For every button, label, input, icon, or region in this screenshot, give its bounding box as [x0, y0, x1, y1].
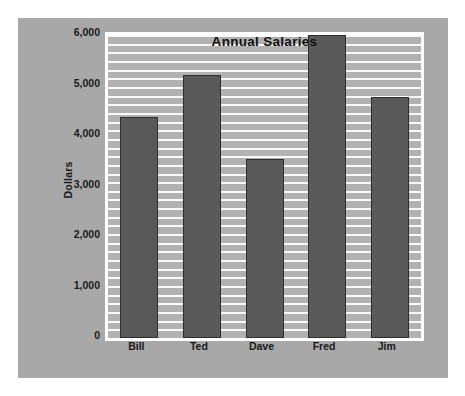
chart-panel: Dollars 01,0002,0003,0004,0005,0006,000 … [18, 18, 448, 378]
y-axis-tick-label: 6,000 [48, 26, 100, 38]
bar [120, 117, 158, 338]
y-axis-tick-label: 5,000 [48, 77, 100, 89]
chart-title: Annual Salaries [108, 34, 421, 49]
bars-layer [108, 35, 421, 338]
y-axis-tick-label: 4,000 [48, 127, 100, 139]
bar [183, 75, 221, 338]
x-axis-category-label: Ted [168, 340, 231, 352]
x-axis-category-label: Bill [105, 340, 168, 352]
bar [308, 35, 346, 338]
y-axis-tick-label: 1,000 [48, 279, 100, 291]
y-axis-tick-label: 0 [48, 329, 100, 341]
x-axis-category-labels: BillTedDaveFredJim [105, 340, 424, 358]
x-axis-category-label: Dave [230, 340, 293, 352]
y-axis-tick-label: 2,000 [48, 228, 100, 240]
bar [246, 159, 284, 338]
y-axis-tick-label: 3,000 [48, 178, 100, 190]
bar [371, 97, 409, 338]
x-axis-category-label: Jim [355, 340, 418, 352]
x-axis-category-label: Fred [293, 340, 356, 352]
y-axis-tick-labels: 01,0002,0003,0004,0005,0006,000 [48, 32, 100, 335]
plot-area [105, 32, 424, 341]
